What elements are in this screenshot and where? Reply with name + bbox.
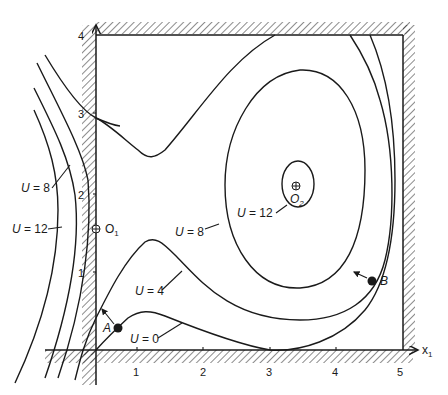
contour-diagram: 1 2 3 4 5 1 2 3 4 x1 O2 O1 bbox=[0, 0, 448, 395]
point-a-label: A bbox=[102, 321, 111, 335]
top-wall-hatch bbox=[96, 22, 410, 34]
contour-u8 bbox=[225, 70, 365, 288]
corner-hatch bbox=[82, 350, 96, 385]
x-tick-3: 3 bbox=[266, 366, 272, 378]
o1-label: O1 bbox=[105, 222, 119, 238]
right-wall-hatch bbox=[403, 25, 415, 350]
svg-text:U = 4: U = 4 bbox=[135, 284, 164, 298]
x-tick-1: 1 bbox=[133, 366, 139, 378]
point-b-label: B bbox=[380, 274, 388, 288]
point-b-dot bbox=[368, 277, 377, 286]
y-tick-2: 2 bbox=[78, 189, 84, 201]
x-tick-4: 4 bbox=[332, 366, 338, 378]
o2-marker-icon bbox=[292, 182, 300, 190]
label-u8-left: U = 8 bbox=[21, 165, 70, 195]
label-u4: U = 4 bbox=[135, 271, 182, 298]
label-u12-left: U = 12 bbox=[12, 222, 62, 236]
x-tick-2: 2 bbox=[200, 366, 206, 378]
label-u8-center: U = 8 bbox=[175, 224, 219, 239]
o1-marker-icon bbox=[92, 225, 100, 233]
contour-u4-upper-branch bbox=[96, 35, 275, 157]
boundary bbox=[45, 25, 418, 385]
hatched-walls bbox=[45, 22, 415, 385]
svg-text:U = 12: U = 12 bbox=[12, 222, 48, 236]
x-tick-5: 5 bbox=[397, 366, 403, 378]
x-tick-labels: 1 2 3 4 5 bbox=[133, 366, 403, 378]
svg-text:U = 12: U = 12 bbox=[237, 206, 273, 220]
o2-label: O2 bbox=[290, 192, 304, 208]
tick-marks bbox=[93, 113, 336, 350]
contour-u4-lower-branch bbox=[96, 35, 392, 320]
arrow-b-icon bbox=[354, 272, 367, 278]
label-u12-center: U = 12 bbox=[237, 205, 287, 220]
y-tick-3: 3 bbox=[78, 108, 84, 120]
label-u0: U = 0 bbox=[130, 323, 182, 346]
svg-text:U = 8: U = 8 bbox=[21, 181, 50, 195]
svg-text:U = 8: U = 8 bbox=[175, 225, 204, 239]
svg-text:U = 0: U = 0 bbox=[130, 332, 159, 346]
contour-u0 bbox=[96, 35, 395, 350]
point-a-dot bbox=[114, 324, 123, 333]
y-tick-4: 4 bbox=[78, 30, 84, 42]
x-axis-label: x1 bbox=[422, 343, 433, 359]
bottom-wall-hatch bbox=[45, 350, 413, 363]
